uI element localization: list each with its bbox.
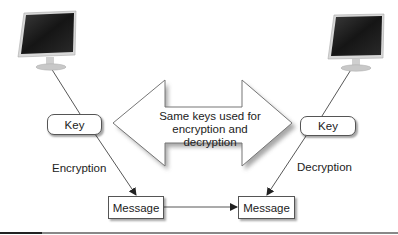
- shared-key-caption-line1: Same keys used for: [150, 110, 270, 123]
- right-computer-monitor-icon: [324, 12, 390, 74]
- symmetric-encryption-diagram: Same keys used for encryption and decryp…: [0, 0, 398, 235]
- shared-key-caption: Same keys used for encryption and decryp…: [150, 110, 270, 149]
- right-key-box: Key: [300, 116, 356, 136]
- line-left-computer-to-key: [51, 68, 80, 114]
- encryption-label: Encryption: [52, 162, 106, 174]
- decryption-label: Decryption: [297, 161, 352, 173]
- left-message-box: Message: [108, 196, 164, 219]
- shared-key-caption-line2: encryption and decryption: [150, 123, 270, 149]
- bottom-rule: [0, 232, 398, 234]
- left-message-label: Message: [113, 202, 160, 214]
- bottom-rule-accent: [0, 232, 42, 234]
- left-computer-monitor-icon: [14, 10, 82, 72]
- line-right-computer-to-key: [322, 68, 352, 116]
- right-key-label: Key: [318, 120, 338, 132]
- left-key-label: Key: [65, 119, 85, 131]
- right-message-box: Message: [238, 196, 295, 219]
- right-message-label: Message: [243, 202, 290, 214]
- left-key-box: Key: [47, 114, 102, 135]
